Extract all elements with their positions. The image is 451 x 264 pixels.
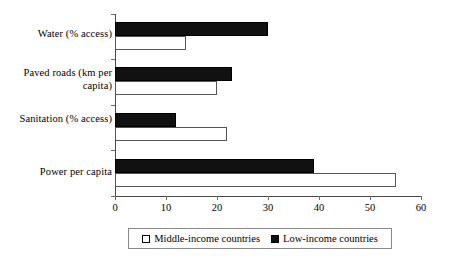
category-label-sanitation: Sanitation (% access) [4, 113, 112, 126]
bar-middle-income-paved-roads [115, 81, 217, 95]
bar-low-income-sanitation [115, 113, 176, 127]
category-axis-labels: Water (% access) Paved roads (km per cap… [4, 14, 112, 196]
x-axis-tick [217, 196, 218, 200]
x-axis-tick-label: 10 [151, 202, 181, 214]
x-axis-tick [319, 196, 320, 200]
x-axis-tick-label: 0 [100, 202, 130, 214]
x-axis-tick [421, 196, 422, 200]
bar-low-income-water [115, 22, 268, 36]
bar-middle-income-power [115, 173, 396, 187]
x-axis-tick [268, 196, 269, 200]
filled-square-icon [271, 235, 279, 243]
bar-middle-income-water [115, 36, 186, 50]
x-axis-tick-label: 50 [355, 202, 385, 214]
x-axis-tick [115, 196, 116, 200]
bar-chart: Water (% access) Paved roads (km per cap… [0, 0, 451, 264]
x-axis-tick-label: 40 [304, 202, 334, 214]
legend-item-low-income: Low-income countries [271, 233, 378, 245]
category-label-paved-roads: Paved roads (km per capita) [4, 67, 112, 92]
chart-legend: Middle-income countries Low-income count… [128, 228, 392, 249]
bar-low-income-paved-roads [115, 67, 232, 81]
x-axis-tick [370, 196, 371, 200]
open-square-icon [142, 235, 150, 243]
x-axis-tick [166, 196, 167, 200]
x-axis-tick-label: 60 [406, 202, 436, 214]
y-axis-tick [111, 150, 115, 151]
bar-middle-income-sanitation [115, 127, 227, 141]
legend-label-middle-income: Middle-income countries [154, 233, 260, 245]
legend-label-low-income: Low-income countries [283, 233, 378, 245]
category-label-power: Power per capita [4, 166, 112, 179]
y-axis-tick [111, 14, 115, 15]
bar-low-income-power [115, 159, 314, 173]
x-axis-tick-label: 20 [202, 202, 232, 214]
category-label-water: Water (% access) [4, 28, 112, 41]
y-axis-tick [111, 59, 115, 60]
x-axis-tick-label: 30 [253, 202, 283, 214]
legend-item-middle-income: Middle-income countries [142, 233, 260, 245]
plot-area: 0 10 20 30 40 50 60 [115, 14, 421, 196]
y-axis-tick [111, 105, 115, 106]
